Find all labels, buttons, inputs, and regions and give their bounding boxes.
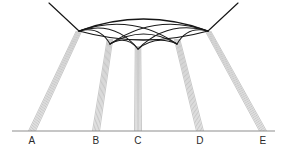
ray-line [95,39,109,131]
ray-line [31,31,78,131]
point-label-A: A [29,135,36,146]
lens-tails-group [49,3,238,31]
ray-line [206,31,261,131]
point-label-E: E [260,135,267,146]
ray-line [34,31,81,131]
ray-line [211,31,267,131]
point-label-D: D [196,135,203,146]
ray-line [30,31,77,131]
ray-line [97,39,111,131]
ray-line [174,39,196,131]
ray-line [176,39,199,131]
ray-line [135,46,136,131]
lens-outline-group [79,19,208,40]
point-labels-group: ABCDE [29,135,267,146]
ray-line [210,31,265,131]
tail-right [208,3,238,31]
diagram-canvas: ABCDE [0,0,285,150]
ray-line [178,39,201,131]
ray-line [207,31,262,131]
point-label-C: C [134,135,141,146]
ray-line [29,31,77,131]
ray-line [180,39,204,131]
inner-arc-2 [138,40,177,49]
bundle-B [93,39,113,131]
ray-line [36,31,82,131]
ray-line [141,46,142,131]
ray-line [209,31,264,131]
ray-line [179,39,202,131]
bundle-E [205,31,266,131]
lens-upper-boundary [79,19,208,31]
ray-diagram-figure: ABCDE [0,0,285,150]
ray-bundles-group [29,31,267,131]
ray-line [205,31,259,131]
bundle-D [174,39,203,131]
tail-left [49,3,79,31]
bundle-A [29,31,82,131]
ray-line [175,39,198,131]
inner-arcs-group [79,24,208,49]
bundle-C [135,46,142,131]
ray-line [33,31,80,131]
point-label-B: B [93,135,100,146]
